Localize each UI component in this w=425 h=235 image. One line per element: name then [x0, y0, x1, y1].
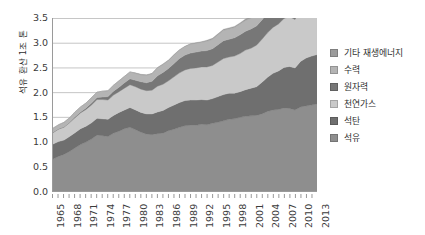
- x-tick-label: 1977: [122, 204, 132, 228]
- plot-area: [52, 18, 317, 192]
- legend-label: 천연가스: [344, 97, 376, 110]
- x-tick-label: 1968: [73, 204, 83, 228]
- legend-item[interactable]: 원자력: [330, 78, 425, 95]
- legend-swatch-icon: [330, 49, 338, 57]
- x-tick-label: 2010: [304, 204, 314, 228]
- y-tick-label: 3.5: [33, 13, 48, 23]
- legend-item[interactable]: 천연가스: [330, 95, 425, 112]
- legend-item[interactable]: 수력: [330, 61, 425, 78]
- legend-swatch-icon: [330, 66, 338, 74]
- y-tick-label: 3.0: [33, 38, 48, 48]
- legend-label: 원자력: [344, 80, 368, 93]
- x-tick-label: 1998: [238, 204, 248, 228]
- chart-figure: 석유 환산 1조 톤 0.00.51.01.52.02.53.03.5 1965…: [0, 0, 425, 235]
- legend-label: 기타 재생에너지: [344, 46, 404, 59]
- x-tick-label: 1974: [106, 204, 116, 228]
- y-tick-label: 0.5: [33, 162, 48, 172]
- x-tick-label: 1983: [155, 204, 165, 228]
- x-tick-label: 2007: [288, 204, 298, 228]
- x-tick-label: 1989: [189, 204, 199, 228]
- y-tick-label: 0.0: [33, 187, 48, 197]
- legend-swatch-icon: [330, 100, 338, 108]
- legend-swatch-icon: [330, 117, 338, 125]
- stacked-area-series: [53, 18, 317, 191]
- x-tick-label: 1971: [89, 204, 99, 228]
- legend-item[interactable]: 석유: [330, 129, 425, 146]
- x-tick-label: 2013: [321, 204, 331, 228]
- legend-swatch-icon: [330, 134, 338, 142]
- legend: 기타 재생에너지수력원자력천연가스석탄석유: [330, 44, 425, 146]
- y-tick-label: 2.5: [33, 63, 48, 73]
- legend-label: 수력: [344, 63, 360, 76]
- legend-swatch-icon: [330, 83, 338, 91]
- legend-item[interactable]: 석탄: [330, 112, 425, 129]
- x-tick-label: 2001: [255, 204, 265, 228]
- x-tick-label: 1980: [139, 204, 149, 228]
- x-tick-label: 2004: [271, 204, 281, 228]
- legend-label: 석유: [344, 131, 360, 144]
- x-tick-label: 1995: [222, 204, 232, 228]
- y-axis: 0.00.51.01.52.02.53.03.5: [18, 0, 48, 235]
- legend-label: 석탄: [344, 114, 360, 127]
- y-tick-label: 2.0: [33, 88, 48, 98]
- x-tick-label: 1986: [172, 204, 182, 228]
- y-tick-label: 1.0: [33, 137, 48, 147]
- x-tick-label: 1965: [56, 204, 66, 228]
- x-axis: 1965196819711974197719801983198619891992…: [52, 194, 317, 235]
- y-tick-label: 1.5: [33, 112, 48, 122]
- x-tick-label: 1992: [205, 204, 215, 228]
- legend-item[interactable]: 기타 재생에너지: [330, 44, 425, 61]
